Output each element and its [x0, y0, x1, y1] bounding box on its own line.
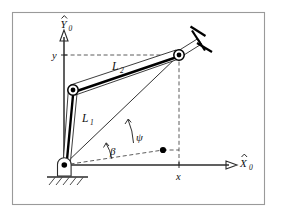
- y-coordinate-label: y: [51, 50, 57, 61]
- wrist-joint-center: [177, 53, 182, 58]
- link2-label-text: L: [111, 60, 118, 72]
- link1-label-text: L: [81, 112, 88, 124]
- beta-angle-label: β: [109, 145, 116, 157]
- figure-container: Y 0 X 0 y x: [0, 0, 281, 223]
- figure-border: [13, 13, 265, 205]
- link1-label-subscript: 1: [90, 118, 94, 127]
- elbow-joint-center: [71, 88, 76, 93]
- psi-angle-label: ψ: [136, 131, 143, 143]
- link2-label-subscript: 2: [120, 66, 124, 75]
- wrist-joint: [174, 50, 184, 60]
- base-joint: [58, 158, 72, 176]
- x-axis-label-subscript: 0: [249, 163, 253, 172]
- point-marker-icon: [160, 147, 166, 153]
- base-joint-center: [62, 162, 68, 168]
- x-axis-label-text: X: [239, 157, 248, 169]
- elbow-joint: [68, 85, 78, 95]
- y-axis-label-subscript: 0: [69, 24, 73, 33]
- kinematic-diagram: Y 0 X 0 y x: [0, 0, 281, 223]
- x-coordinate-label: x: [175, 171, 181, 182]
